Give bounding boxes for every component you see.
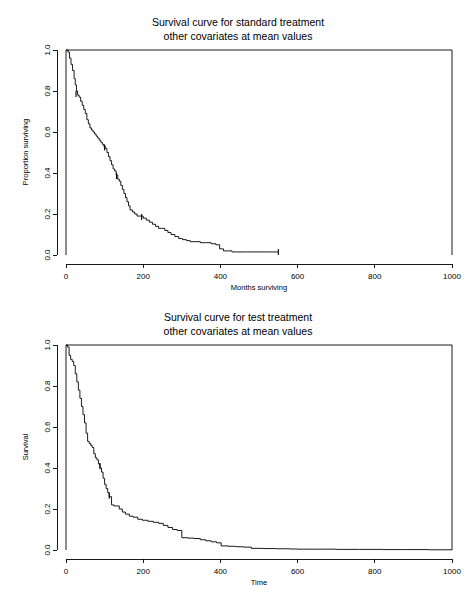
survival-plot-test: Survival curve for test treatment other … — [0, 295, 476, 593]
survival-step-path — [66, 50, 278, 252]
chart-title-line2: other covariates at mean values — [164, 30, 313, 42]
chart-title-line2: other covariates at mean values — [164, 325, 313, 337]
y-tick-label: 0.6 — [43, 126, 52, 138]
y-tick-label: 1.0 — [43, 339, 52, 351]
x-tick-label: 400 — [214, 567, 228, 576]
chart-title-line1: Survival curve for standard treatment — [152, 16, 324, 28]
x-tick-label: 400 — [214, 272, 228, 281]
y-axis-title: Survival — [21, 433, 30, 460]
axes-test: 020040060080010000.00.20.40.60.81.0 — [43, 339, 462, 576]
y-tick-label: 0.0 — [43, 249, 52, 261]
figure-standard-treatment: Survival curve for standard treatment ot… — [0, 0, 476, 298]
x-tick-label: 800 — [368, 272, 382, 281]
y-tick-label: 0.2 — [43, 503, 52, 515]
plot-frame — [66, 50, 452, 255]
y-axis-title: Proportion surviving — [21, 119, 30, 185]
y-tick-label: 0.4 — [43, 462, 52, 474]
y-tick-label: 0.6 — [43, 421, 52, 433]
x-axis-title: Time — [251, 578, 267, 587]
x-tick-label: 200 — [137, 567, 151, 576]
y-tick-label: 0.8 — [43, 380, 52, 392]
figure-test-treatment: Survival curve for test treatment other … — [0, 295, 476, 593]
chart-title-line1: Survival curve for test treatment — [164, 311, 312, 323]
x-tick-label: 600 — [291, 567, 305, 576]
survival-plot-standard: Survival curve for standard treatment ot… — [0, 0, 476, 298]
survival-curve-standard — [66, 50, 278, 252]
x-tick-label: 600 — [291, 272, 305, 281]
y-tick-label: 0.0 — [43, 544, 52, 556]
x-tick-label: 800 — [368, 567, 382, 576]
y-tick-label: 1.0 — [43, 44, 52, 56]
x-axis-title: Months surviving — [231, 283, 287, 292]
axes-standard: 020040060080010000.00.20.40.60.81.0 — [43, 44, 462, 281]
y-tick-label: 0.8 — [43, 85, 52, 97]
x-tick-label: 200 — [137, 272, 151, 281]
plot-frame — [66, 345, 452, 550]
plot-title-group: Survival curve for test treatment other … — [164, 311, 313, 337]
plot-title-group: Survival curve for standard treatment ot… — [152, 16, 324, 42]
survival-curve-test — [66, 345, 452, 550]
survival-step-path — [66, 345, 452, 550]
x-tick-label: 0 — [64, 272, 69, 281]
y-tick-label: 0.2 — [43, 208, 52, 220]
x-tick-label: 0 — [64, 567, 69, 576]
x-tick-label: 1000 — [443, 567, 461, 576]
y-tick-label: 0.4 — [43, 167, 52, 179]
censoring-marks-standard — [76, 91, 278, 255]
x-tick-label: 1000 — [443, 272, 461, 281]
